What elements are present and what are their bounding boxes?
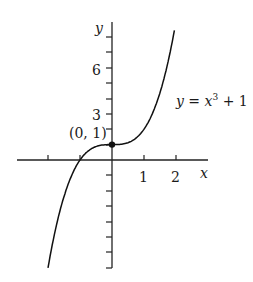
- x-tick-label-1: 1: [139, 169, 148, 185]
- point-label: (0, 1): [69, 125, 107, 141]
- equation-label: y = x3 + 1: [175, 92, 248, 109]
- curve-cubic: [48, 30, 174, 267]
- y-ticks: [106, 37, 112, 268]
- y-axis-label: y: [94, 20, 104, 36]
- chart-figure: y x 1 2 6 3 (0, 1) y = x3 + 1: [0, 0, 253, 282]
- plot-canvas: y x 1 2 6 3 (0, 1) y = x3 + 1: [0, 0, 253, 282]
- equation-x: x: [205, 93, 213, 109]
- equation-tail: + 1: [218, 93, 248, 109]
- equation-eq: =: [184, 93, 205, 109]
- y-tick-label-6: 6: [92, 62, 101, 78]
- x-axis-label: x: [200, 165, 208, 181]
- point-marker: [109, 141, 115, 147]
- y-tick-label-3: 3: [92, 107, 101, 123]
- x-tick-label-2: 2: [171, 169, 180, 185]
